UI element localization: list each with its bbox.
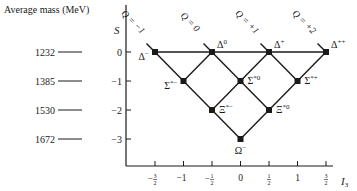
particle-label: Ξ*0 bbox=[276, 103, 290, 115]
fraction-denominator: 2 bbox=[325, 180, 328, 186]
particle-node bbox=[209, 49, 215, 55]
fraction-numerator: 1 bbox=[268, 173, 271, 179]
particle-label: Σ*0 bbox=[248, 74, 261, 86]
particle-label-superscript: *− bbox=[170, 79, 178, 87]
charge-line-label: Q = 0 bbox=[179, 10, 202, 33]
x-tick-label: 0 bbox=[238, 173, 243, 183]
x-tick-fraction: 32 bbox=[324, 173, 328, 186]
particle-label-superscript: ++ bbox=[337, 38, 345, 46]
charge-line-label: Q = +2 bbox=[290, 8, 318, 36]
x-tick-label: −1 bbox=[176, 173, 186, 183]
x-tick-label: 1 bbox=[295, 173, 300, 183]
charge-line bbox=[147, 44, 241, 139]
x-tick-fraction: −32 bbox=[147, 173, 157, 186]
particle-node bbox=[238, 136, 244, 142]
particle-label-superscript: − bbox=[145, 50, 149, 58]
particle-label-superscript: *0 bbox=[282, 103, 290, 111]
particle-label-superscript: + bbox=[280, 38, 284, 46]
y-tick-label: −1 bbox=[111, 76, 122, 87]
particle-node bbox=[181, 78, 187, 84]
fraction-numerator: 1 bbox=[211, 173, 214, 179]
y-tick-label: 0 bbox=[117, 47, 122, 58]
strangeness-diagonal bbox=[184, 52, 213, 81]
particle-label: Ω− bbox=[235, 144, 246, 156]
particle-label-superscript: *+ bbox=[310, 74, 318, 82]
x-axis-label-subscript: 3 bbox=[345, 181, 349, 189]
charge-line-label: Q = −1 bbox=[119, 8, 147, 36]
baryon-decuplet-diagram: Average mass (MeV)SI30−1−2−3123213851530… bbox=[0, 0, 357, 191]
particle-label: Δ++ bbox=[331, 38, 345, 50]
particle-label: Ξ*− bbox=[219, 103, 233, 115]
mass-value: 1232 bbox=[35, 47, 55, 58]
fraction-numerator: 3 bbox=[325, 173, 328, 179]
particle-label-superscript: *0 bbox=[253, 74, 261, 82]
mass-column-title: Average mass (MeV) bbox=[4, 4, 89, 16]
particle-label-superscript: − bbox=[242, 144, 246, 152]
particle-node bbox=[295, 78, 301, 84]
mass-value: 1530 bbox=[35, 105, 55, 116]
labels: Average mass (MeV)SI30−1−2−3123213851530… bbox=[4, 4, 349, 189]
particle-label-superscript: 0 bbox=[223, 38, 227, 46]
particle-node bbox=[266, 49, 272, 55]
particle-node bbox=[266, 107, 272, 113]
y-tick-label: −2 bbox=[111, 105, 122, 116]
x-axis-label: I3 bbox=[340, 175, 349, 189]
y-tick-label: −3 bbox=[111, 134, 122, 145]
particle-label: Δ− bbox=[139, 50, 149, 62]
particle-label: Σ*− bbox=[164, 79, 177, 91]
fraction-denominator: 2 bbox=[211, 180, 214, 186]
strangeness-diagonal bbox=[241, 52, 327, 139]
fraction-minus: − bbox=[204, 173, 209, 183]
fraction-denominator: 2 bbox=[154, 180, 157, 186]
particle-node bbox=[209, 107, 215, 113]
fraction-minus: − bbox=[147, 173, 152, 183]
particle-label: Δ+ bbox=[274, 38, 284, 50]
mass-value: 1672 bbox=[35, 134, 55, 145]
particle-node bbox=[152, 49, 158, 55]
fraction-denominator: 2 bbox=[268, 180, 271, 186]
mass-value: 1385 bbox=[35, 76, 55, 87]
particle-nodes bbox=[152, 49, 329, 142]
multiplet-lines bbox=[147, 44, 326, 139]
fraction-numerator: 3 bbox=[154, 173, 157, 179]
particle-node bbox=[323, 49, 329, 55]
particle-node bbox=[238, 78, 244, 84]
x-tick-fraction: 12 bbox=[267, 173, 271, 186]
particle-label: Δ0 bbox=[217, 38, 227, 50]
particle-label-superscript: *− bbox=[225, 103, 233, 111]
particle-label: Σ*+ bbox=[305, 74, 318, 86]
x-tick-fraction: −12 bbox=[204, 173, 214, 186]
y-axis-label: S bbox=[114, 24, 120, 36]
charge-line-label: Q = +1 bbox=[233, 8, 261, 36]
